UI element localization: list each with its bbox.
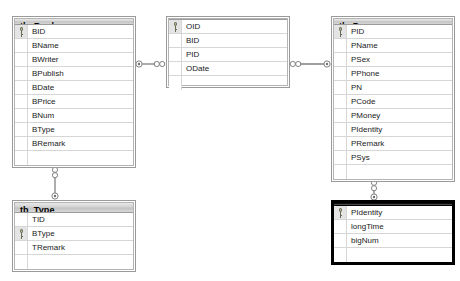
field-row[interactable]: longTime [334,220,452,234]
field-gutter [169,34,182,47]
primary-key-gutter [169,20,182,33]
field-gutter [334,234,347,247]
field-name: BID [182,34,287,47]
field-gutter [169,76,182,90]
field-name: BName [28,39,133,52]
field-row[interactable]: PIdentity [334,123,452,137]
field-row[interactable]: ODate [169,62,287,76]
er-diagram-canvas[interactable]: tb_BookBIDBNameBWriterBPublishBDateBPric… [0,0,460,281]
key-icon [339,208,342,218]
field-row[interactable]: PRemark [334,137,452,151]
table-title-tb_Type[interactable]: tb_Type [15,203,133,213]
field-name: TID [28,213,133,226]
primary-key-gutter [334,206,347,219]
field-row[interactable]: BDate [15,81,133,95]
key-icon [20,229,23,239]
field-row[interactable]: PIdentity [334,206,452,220]
field-name: BWriter [28,53,133,66]
field-row[interactable]: BID [169,34,287,48]
primary-key-gutter [15,227,28,240]
entity-table-tb_Identity[interactable]: tb_IdentityPIdentitylongTimebigNum [331,200,455,265]
field-row[interactable]: PID [169,48,287,62]
field-name: PName [347,39,452,52]
field-row[interactable]: PPhone [334,67,452,81]
field-name [182,76,287,90]
field-gutter [15,241,28,254]
field-gutter [15,151,28,165]
field-name: PCode [347,95,452,108]
field-gutter [334,220,347,233]
entity-table-tb_Person[interactable]: tb_PersonPIDPNamePSexPPhonePNPCodePMoney… [331,16,455,182]
field-name: BNum [28,109,133,122]
field-name: PN [347,81,452,94]
entity-table-tb_Book[interactable]: tb_BookBIDBNameBWriterBPublishBDateBPric… [12,16,136,168]
key-icon [20,27,23,37]
field-row[interactable]: BWriter [15,53,133,67]
field-row[interactable]: PSex [334,53,452,67]
field-gutter [169,48,182,61]
field-name: TRemark [28,241,133,254]
field-name [28,151,133,165]
field-gutter [334,81,347,94]
empty-field-row[interactable] [169,76,287,90]
field-gutter [334,137,347,150]
field-gutter [334,95,347,108]
key-icon [174,22,177,32]
field-row[interactable]: PCode [334,95,452,109]
field-row[interactable]: PN [334,81,452,95]
field-name: BID [28,25,133,38]
field-row[interactable]: BID [15,25,133,39]
field-gutter [15,81,28,94]
relationship-tb_Book-tb_BookOut[interactable] [136,61,165,67]
field-row[interactable]: PMoney [334,109,452,123]
field-row[interactable]: BPrice [15,95,133,109]
field-name: longTime [347,220,452,233]
field-gutter [15,109,28,122]
field-row[interactable]: PID [334,25,452,39]
field-gutter [334,67,347,80]
field-row[interactable]: BPublish [15,67,133,81]
entity-table-tb_BookOut[interactable]: tb_BookOutOIDBIDPIDODate [166,16,290,88]
field-row[interactable]: TID [15,213,133,227]
field-name: BDate [28,81,133,94]
entity-table-tb_Type[interactable]: tb_TypeTIDBTypeTRemark [12,200,136,272]
field-row[interactable]: BType [15,123,133,137]
field-row[interactable]: BNum [15,109,133,123]
empty-field-row[interactable] [15,151,133,165]
field-name: bigNum [347,234,452,247]
field-name: PID [182,48,287,61]
field-name [347,248,452,262]
key-icon [339,27,342,37]
relationship-tb_Book-tb_Type[interactable] [52,167,58,199]
field-gutter [15,213,28,226]
field-gutter [334,248,347,262]
primary-key-gutter [334,25,347,38]
field-gutter [334,109,347,122]
field-row[interactable]: BRemark [15,137,133,151]
field-row[interactable]: OID [169,20,287,34]
empty-field-row[interactable] [334,165,452,179]
empty-field-row[interactable] [15,255,133,269]
field-row[interactable]: PSys [334,151,452,165]
field-name: PRemark [347,137,452,150]
field-list-tb_Book: BIDBNameBWriterBPublishBDateBPriceBNumBT… [15,25,133,165]
field-gutter [334,123,347,136]
empty-field-row[interactable] [334,248,452,262]
field-name: PSex [347,53,452,66]
field-gutter [15,39,28,52]
field-gutter [334,39,347,52]
field-name: BType [28,123,133,136]
relationship-tb_BookOut-tb_Person[interactable] [290,61,330,67]
field-row[interactable]: TRemark [15,241,133,255]
field-row[interactable]: bigNum [334,234,452,248]
field-row[interactable]: BName [15,39,133,53]
field-gutter [15,67,28,80]
field-row[interactable]: PName [334,39,452,53]
field-gutter [334,165,347,179]
field-row[interactable]: BType [15,227,133,241]
field-gutter [15,255,28,269]
field-gutter [15,53,28,66]
relationship-tb_Person-tb_Identity[interactable] [371,180,377,200]
field-name: PID [347,25,452,38]
field-name: BType [28,227,133,240]
